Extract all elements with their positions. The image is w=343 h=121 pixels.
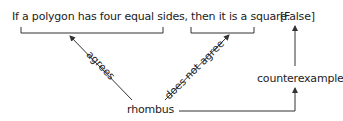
rhombus-to-counterexample-arrow: [179, 88, 295, 111]
diagram-connectors: [0, 0, 343, 121]
conclusion-bracket: [191, 27, 254, 33]
hypothesis-bracket: [21, 27, 163, 33]
conditional-counterexample-diagram: If a polygon has four equal sides, then …: [0, 0, 343, 121]
